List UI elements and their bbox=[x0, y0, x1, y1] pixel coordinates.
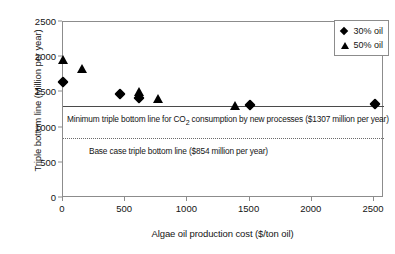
y-tick-label: 0 bbox=[51, 192, 56, 203]
y-tick-label: 1500 bbox=[35, 86, 56, 97]
diamond-legend-icon bbox=[339, 26, 350, 37]
x-tick-mark bbox=[373, 197, 374, 201]
reference-line-base-case-triple-bottom-line bbox=[63, 138, 384, 139]
triangle-marker-icon bbox=[153, 94, 163, 103]
y-tick-label: 2500 bbox=[35, 16, 56, 27]
diamond-marker-icon bbox=[244, 99, 255, 110]
triangle-marker-icon bbox=[230, 101, 240, 110]
x-axis-title: Algae oil production cost ($/ton oil) bbox=[62, 228, 383, 239]
x-tick-mark bbox=[62, 197, 63, 201]
legend-item: 30% oil bbox=[339, 24, 383, 38]
y-tick-label: 2000 bbox=[35, 51, 56, 62]
triangle-marker-icon bbox=[58, 55, 68, 64]
diamond-marker-icon bbox=[57, 76, 68, 87]
x-tick-label: 2000 bbox=[300, 203, 321, 214]
x-tick-mark bbox=[311, 197, 312, 201]
triangle-marker-icon bbox=[77, 64, 87, 73]
legend-label: 30% oil bbox=[353, 26, 383, 36]
x-tick-label: 2500 bbox=[362, 203, 383, 214]
y-tick-label: 500 bbox=[40, 156, 56, 167]
x-tick-label: 0 bbox=[59, 203, 64, 214]
reference-line-minimum-triple-bottom-line bbox=[63, 106, 384, 107]
chart-legend: 30% oil50% oil bbox=[334, 20, 389, 56]
legend-item: 50% oil bbox=[339, 38, 383, 52]
triangle-marker-icon bbox=[134, 87, 144, 96]
triangle-legend-icon bbox=[339, 40, 350, 51]
x-tick-label: 1500 bbox=[238, 203, 259, 214]
diamond-marker-icon bbox=[115, 88, 126, 99]
reference-line-label-minimum-triple-bottom-line: Minimum triple bottom line for CO2 consu… bbox=[67, 114, 389, 126]
x-tick-mark bbox=[186, 197, 187, 201]
x-tick-mark bbox=[249, 197, 250, 201]
legend-label: 50% oil bbox=[353, 40, 383, 50]
diamond-marker-icon bbox=[370, 98, 381, 109]
y-axis-title: Triple bottom line (Million per year) bbox=[32, 1, 43, 201]
reference-line-label-base-case-triple-bottom-line: Base case triple bottom line ($854 milli… bbox=[89, 146, 268, 156]
x-tick-label: 1000 bbox=[176, 203, 197, 214]
y-tick-label: 1000 bbox=[35, 121, 56, 132]
chart-figure: Triple bottom line (Million per year) Al… bbox=[0, 0, 395, 254]
x-tick-mark bbox=[124, 197, 125, 201]
x-tick-label: 500 bbox=[116, 203, 132, 214]
